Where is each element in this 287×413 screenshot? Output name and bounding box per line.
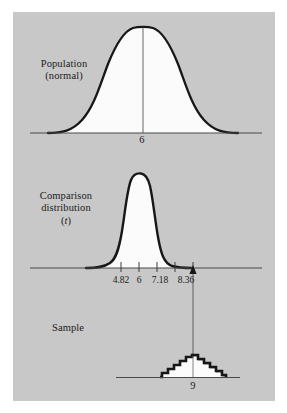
comparison-label-line1: Comparison <box>40 190 92 201</box>
comparison-label-line3: (t) <box>61 215 71 226</box>
sample-panel-graphic <box>116 355 240 378</box>
population-label-line1: Population <box>41 58 88 69</box>
comparison-label: Comparison distribution (t) <box>20 190 112 227</box>
sample-label: Sample <box>22 322 114 334</box>
comparison-tick-label-4: 8.36 <box>171 275 201 285</box>
population-label: Population (normal) <box>18 58 110 83</box>
figure-page: Population (normal) 6 Comparison distrib… <box>0 0 287 413</box>
population-mean-label: 6 <box>129 134 155 146</box>
comparison-label-line2: distribution <box>41 202 91 213</box>
sample-mean-label: 9 <box>180 380 206 392</box>
population-label-line2: (normal) <box>45 70 83 81</box>
paren-close: ) <box>68 215 72 226</box>
arrow-head <box>189 265 196 274</box>
